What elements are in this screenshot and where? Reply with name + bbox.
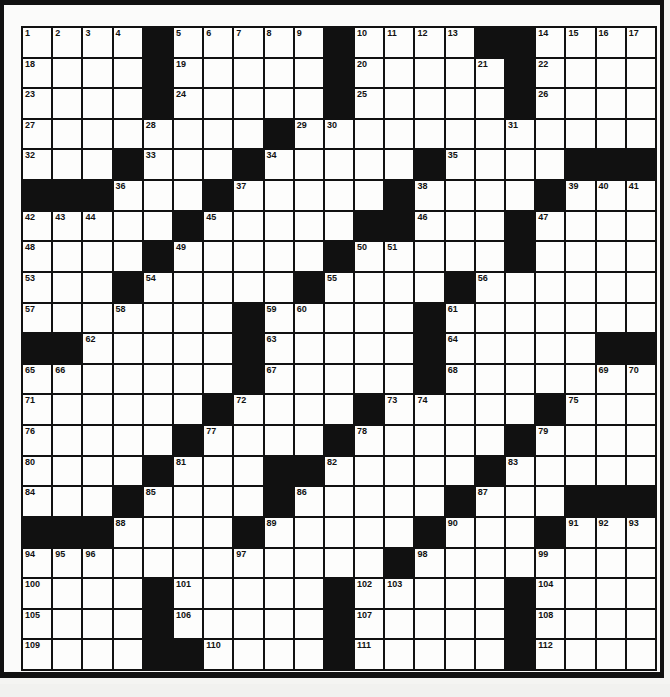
grid-cell[interactable]: 72 [234, 395, 262, 424]
grid-cell[interactable] [355, 304, 383, 333]
grid-cell[interactable]: 101 [174, 579, 202, 608]
grid-cell[interactable] [204, 150, 232, 179]
grid-cell[interactable]: 87 [476, 487, 504, 516]
grid-cell[interactable]: 54 [144, 273, 172, 302]
grid-cell[interactable]: 32 [23, 150, 51, 179]
grid-cell[interactable] [476, 304, 504, 333]
grid-cell[interactable] [174, 304, 202, 333]
grid-cell[interactable] [174, 549, 202, 578]
grid-cell[interactable] [53, 395, 81, 424]
grid-cell[interactable] [566, 640, 594, 669]
grid-cell[interactable] [204, 365, 232, 394]
grid-cell[interactable] [536, 365, 564, 394]
grid-cell[interactable]: 73 [385, 395, 413, 424]
grid-cell[interactable] [295, 89, 323, 118]
grid-cell[interactable]: 82 [325, 457, 353, 486]
grid-cell[interactable] [597, 89, 625, 118]
grid-cell[interactable]: 88 [114, 518, 142, 547]
grid-cell[interactable] [114, 120, 142, 149]
grid-cell[interactable] [295, 242, 323, 271]
grid-cell[interactable] [204, 59, 232, 88]
grid-cell[interactable]: 91 [566, 518, 594, 547]
grid-cell[interactable] [295, 334, 323, 363]
grid-cell[interactable] [627, 212, 655, 241]
grid-cell[interactable] [144, 426, 172, 455]
grid-cell[interactable] [325, 365, 353, 394]
grid-cell[interactable] [83, 150, 111, 179]
grid-cell[interactable] [476, 640, 504, 669]
grid-cell[interactable] [53, 457, 81, 486]
grid-cell[interactable] [234, 59, 262, 88]
grid-cell[interactable] [295, 150, 323, 179]
grid-cell[interactable] [265, 242, 293, 271]
grid-cell[interactable] [536, 334, 564, 363]
grid-cell[interactable] [265, 549, 293, 578]
grid-cell[interactable] [204, 120, 232, 149]
grid-cell[interactable] [265, 273, 293, 302]
grid-cell[interactable] [174, 518, 202, 547]
grid-cell[interactable]: 31 [506, 120, 534, 149]
grid-cell[interactable] [83, 640, 111, 669]
grid-cell[interactable] [325, 549, 353, 578]
grid-cell[interactable] [385, 334, 413, 363]
grid-cell[interactable]: 96 [83, 549, 111, 578]
grid-cell[interactable]: 27 [23, 120, 51, 149]
grid-cell[interactable] [415, 610, 443, 639]
grid-cell[interactable] [597, 395, 625, 424]
grid-cell[interactable] [627, 120, 655, 149]
grid-cell[interactable] [53, 59, 81, 88]
grid-cell[interactable]: 63 [265, 334, 293, 363]
grid-cell[interactable] [627, 426, 655, 455]
grid-cell[interactable] [446, 120, 474, 149]
grid-cell[interactable] [597, 120, 625, 149]
grid-cell[interactable]: 5 [174, 28, 202, 57]
grid-cell[interactable]: 11 [385, 28, 413, 57]
grid-cell[interactable]: 57 [23, 304, 51, 333]
grid-cell[interactable] [506, 395, 534, 424]
grid-cell[interactable] [53, 610, 81, 639]
grid-cell[interactable] [114, 457, 142, 486]
grid-cell[interactable] [204, 242, 232, 271]
grid-cell[interactable]: 104 [536, 579, 564, 608]
grid-cell[interactable] [446, 579, 474, 608]
grid-cell[interactable]: 19 [174, 59, 202, 88]
grid-cell[interactable]: 18 [23, 59, 51, 88]
grid-cell[interactable] [627, 304, 655, 333]
grid-cell[interactable] [325, 334, 353, 363]
grid-cell[interactable] [355, 120, 383, 149]
grid-cell[interactable] [204, 518, 232, 547]
grid-cell[interactable] [144, 181, 172, 210]
grid-cell[interactable] [265, 212, 293, 241]
grid-cell[interactable] [265, 59, 293, 88]
grid-cell[interactable] [265, 426, 293, 455]
grid-cell[interactable] [506, 549, 534, 578]
grid-cell[interactable] [597, 579, 625, 608]
grid-cell[interactable] [295, 518, 323, 547]
grid-cell[interactable]: 109 [23, 640, 51, 669]
grid-cell[interactable]: 44 [83, 212, 111, 241]
grid-cell[interactable] [566, 610, 594, 639]
grid-cell[interactable]: 55 [325, 273, 353, 302]
grid-cell[interactable]: 39 [566, 181, 594, 210]
grid-cell[interactable]: 98 [415, 549, 443, 578]
grid-cell[interactable] [204, 457, 232, 486]
grid-cell[interactable]: 61 [446, 304, 474, 333]
grid-cell[interactable] [566, 549, 594, 578]
grid-cell[interactable]: 92 [597, 518, 625, 547]
grid-cell[interactable] [566, 212, 594, 241]
grid-cell[interactable] [476, 549, 504, 578]
grid-cell[interactable] [204, 549, 232, 578]
grid-cell[interactable] [446, 59, 474, 88]
grid-cell[interactable]: 16 [597, 28, 625, 57]
grid-cell[interactable] [83, 120, 111, 149]
grid-cell[interactable] [566, 334, 594, 363]
grid-cell[interactable]: 50 [355, 242, 383, 271]
grid-cell[interactable]: 20 [355, 59, 383, 88]
grid-cell[interactable] [114, 549, 142, 578]
grid-cell[interactable] [114, 365, 142, 394]
grid-cell[interactable]: 8 [265, 28, 293, 57]
grid-cell[interactable] [355, 365, 383, 394]
grid-cell[interactable] [476, 395, 504, 424]
grid-cell[interactable] [415, 120, 443, 149]
grid-cell[interactable]: 53 [23, 273, 51, 302]
